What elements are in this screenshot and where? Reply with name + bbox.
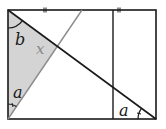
geometry-diagram: b x a a [0, 0, 166, 129]
diagram-svg: b x a a [0, 0, 166, 129]
label-b: b [15, 30, 25, 49]
label-a-right: a [119, 101, 129, 120]
label-x: x [36, 40, 45, 58]
label-a-left: a [13, 83, 23, 102]
angle-tick-a-right [137, 113, 141, 114]
